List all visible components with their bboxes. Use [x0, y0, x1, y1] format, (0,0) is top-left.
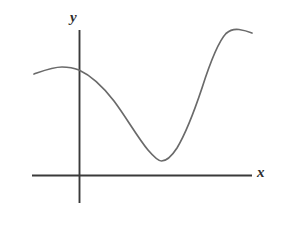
plot-background: [0, 0, 281, 240]
y-axis-label: y: [70, 10, 77, 25]
x-axis-label: x: [257, 165, 265, 180]
coordinate-plot: [0, 0, 281, 240]
graph-figure: y x: [0, 0, 281, 240]
